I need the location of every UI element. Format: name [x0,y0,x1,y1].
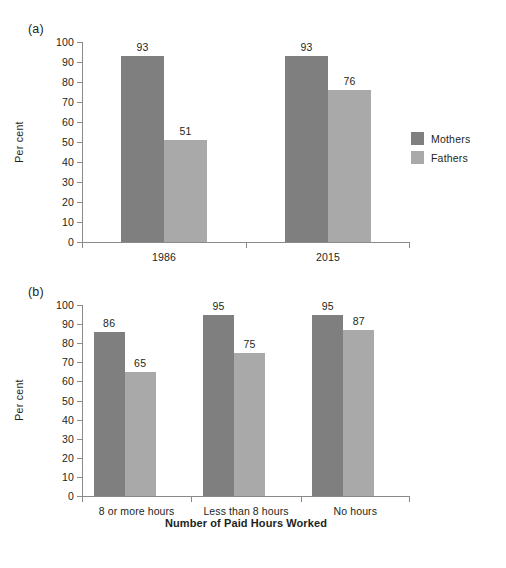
bar-mothers-0: 86 [94,332,125,496]
legend-label-mothers: Mothers [431,133,470,145]
y-tick-label: 90 [62,56,74,68]
y-tick-mark [77,102,82,103]
bar-value-label: 75 [234,338,265,350]
y-tick-label: 10 [62,216,74,228]
bar-value-label: 95 [203,300,234,312]
x-group-label: No hours [301,505,410,517]
chart-b-y-axis-line [82,305,83,496]
chart-a-y-axis-line [82,42,83,242]
bar-value-label: 76 [328,75,371,87]
chart-b-x-axis-line [82,496,410,497]
legend-item-mothers: Mothers [411,129,470,148]
bar-mothers-0: 93 [121,56,164,242]
bar-mothers-1: 95 [203,315,234,496]
y-tick-label: 40 [62,414,74,426]
chart-b-y-axis-title: Per cent [13,379,25,421]
y-tick-mark [77,82,82,83]
panel-a-label: (a) [28,22,44,36]
bar-value-label: 93 [285,41,328,53]
chart-b-plot-area: 0102030405060708090100 866595759587 8 or… [82,305,410,496]
y-tick-label: 100 [56,36,74,48]
x-group-label: Less than 8 hours [191,505,300,517]
x-group-label: 2015 [246,251,410,263]
chart-b-x-axis-title: Number of Paid Hours Worked [82,517,410,529]
panel-b: (b) 0102030405060708090100 866595759587 … [0,280,506,568]
y-tick-label: 80 [62,76,74,88]
y-tick-label: 0 [68,236,74,248]
legend-swatch-mothers [411,132,424,145]
x-axis-divider [82,496,83,502]
y-tick-mark [77,122,82,123]
x-group-label: 8 or more hours [82,505,191,517]
bar-fathers-1: 76 [328,90,371,242]
y-tick-label: 0 [68,490,74,502]
y-tick-mark [77,305,82,306]
bar-value-label: 51 [164,125,207,137]
legend-label-fathers: Fathers [431,152,468,164]
x-axis-divider [246,242,247,248]
y-tick-mark [77,477,82,478]
y-tick-label: 40 [62,156,74,168]
y-tick-mark [77,420,82,421]
y-tick-label: 10 [62,471,74,483]
bar-fathers-0: 65 [125,372,156,496]
y-tick-label: 20 [62,452,74,464]
y-tick-label: 30 [62,176,74,188]
legend-item-fathers: Fathers [411,148,470,167]
y-tick-label: 70 [62,96,74,108]
legend-swatch-fathers [411,151,424,164]
bar-value-label: 93 [121,41,164,53]
x-group-label: 1986 [82,251,246,263]
y-tick-label: 60 [62,116,74,128]
y-tick-mark [77,42,82,43]
y-tick-mark [77,401,82,402]
y-tick-label: 60 [62,375,74,387]
y-tick-mark [77,362,82,363]
bar-fathers-2: 87 [343,330,374,496]
y-tick-mark [77,343,82,344]
y-tick-mark [77,324,82,325]
x-axis-divider [409,242,410,248]
y-tick-label: 30 [62,433,74,445]
y-tick-mark [77,162,82,163]
chart-a-plot-area: 0102030405060708090100 93519376 19862015… [82,42,410,242]
x-axis-divider [191,496,192,502]
bar-value-label: 86 [94,317,125,329]
panel-a: (a) 0102030405060708090100 93519376 1986… [0,0,506,280]
y-tick-label: 20 [62,196,74,208]
bar-value-label: 95 [312,300,343,312]
y-tick-label: 50 [62,395,74,407]
bar-fathers-1: 75 [234,353,265,496]
bar-mothers-1: 93 [285,56,328,242]
y-tick-mark [77,381,82,382]
y-tick-label: 90 [62,318,74,330]
y-tick-mark [77,458,82,459]
bar-mothers-2: 95 [312,315,343,496]
bar-fathers-0: 51 [164,140,207,242]
x-axis-divider [409,496,410,502]
y-tick-mark [77,182,82,183]
bar-value-label: 87 [343,315,374,327]
y-tick-label: 80 [62,337,74,349]
y-tick-label: 100 [56,299,74,311]
chart-a-y-axis-title: Per cent [13,121,25,163]
y-tick-mark [77,62,82,63]
y-tick-mark [77,439,82,440]
y-tick-mark [77,222,82,223]
y-tick-label: 70 [62,356,74,368]
panel-b-label: (b) [28,285,44,299]
y-tick-mark [77,202,82,203]
y-tick-label: 50 [62,136,74,148]
bar-value-label: 65 [125,357,156,369]
y-tick-mark [77,142,82,143]
x-axis-divider [301,496,302,502]
x-axis-divider [82,242,83,248]
chart-a-legend: Mothers Fathers [411,129,470,167]
